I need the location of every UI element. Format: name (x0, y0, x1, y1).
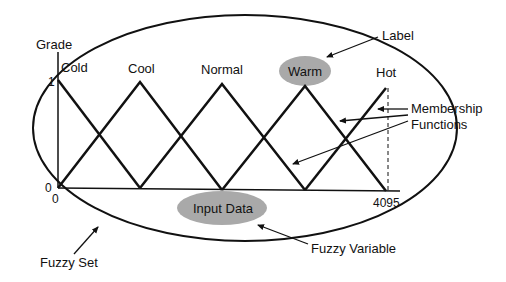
annotation-fuzzy-variable: Fuzzy Variable (311, 241, 396, 256)
label-warm: Warm (288, 64, 322, 79)
annotation-functions: Functions (411, 117, 468, 132)
y-max-label: 1 (48, 75, 55, 89)
fuzzy-set-arrow (74, 227, 98, 254)
label-cool: Cool (128, 61, 155, 76)
annotation-label: Label (382, 28, 414, 43)
annotation-membership: Membership (411, 101, 483, 116)
membership-arrow-2 (340, 115, 408, 121)
membership-functions (58, 80, 386, 191)
label-normal: Normal (201, 62, 243, 77)
label-arrow (327, 37, 378, 57)
annotation-input-data: Input Data (193, 201, 254, 216)
x-max-label: 4095 (373, 196, 400, 210)
x-min-label: 0 (52, 192, 59, 206)
y-axis-title: Grade (36, 37, 72, 52)
label-cold: Cold (61, 60, 88, 75)
fuzzy-logic-diagram: Grade 1 0 0 4095 Cold Cool Normal Warm H… (0, 0, 506, 282)
y-min-label: 0 (45, 181, 52, 195)
x-axis (58, 188, 400, 191)
label-hot: Hot (376, 65, 397, 80)
membership-normal (140, 84, 305, 190)
membership-cool (58, 82, 222, 190)
annotation-fuzzy-set: Fuzzy Set (40, 255, 98, 270)
membership-arrow-3 (293, 121, 408, 164)
